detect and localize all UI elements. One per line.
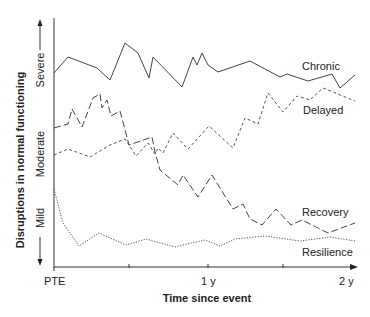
- series-resilience-line: [54, 189, 355, 247]
- x-tick-label-2y: 2 y: [339, 275, 354, 287]
- label-delayed: Delayed: [303, 104, 343, 116]
- label-chronic: Chronic: [302, 60, 340, 72]
- y-level-severe: Severe: [34, 53, 46, 88]
- y-level-mild: Mild: [34, 208, 46, 228]
- x-axis-arrow-icon: [350, 264, 358, 270]
- series-delayed-line: [54, 88, 355, 157]
- x-tick-label-1y: 1 y: [201, 275, 216, 287]
- x-tick-label-pte: PTE: [44, 275, 65, 287]
- y-axis-title: Disruptions in normal functioning: [14, 72, 26, 249]
- arrow-up-icon: [38, 19, 43, 26]
- label-resilience: Resilience: [302, 246, 353, 258]
- label-recovery: Recovery: [302, 206, 349, 218]
- trajectory-chart: Chronic Delayed Recovery Resilience PTE …: [0, 0, 370, 317]
- x-axis-title: Time since event: [163, 292, 252, 304]
- arrow-down-icon: [38, 259, 43, 266]
- y-level-moderate: Moderate: [34, 131, 46, 177]
